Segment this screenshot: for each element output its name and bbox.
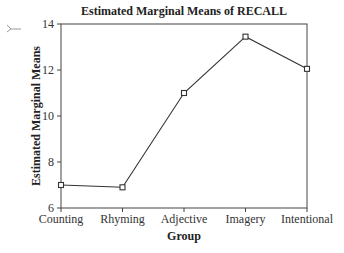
data-point-marker bbox=[120, 185, 125, 190]
x-tick-label: Adjective bbox=[161, 212, 208, 226]
data-point-marker bbox=[305, 66, 310, 71]
y-tick-label: 14 bbox=[42, 17, 54, 31]
y-tick-label: 10 bbox=[42, 109, 54, 123]
x-tick-label: Imagery bbox=[226, 212, 266, 226]
x-tick-label: Rhyming bbox=[100, 212, 145, 226]
data-point-marker bbox=[59, 183, 64, 188]
line-chart: 68101214CountingRhymingAdjectiveImageryI… bbox=[0, 0, 344, 253]
data-point-marker bbox=[182, 91, 187, 96]
y-tick-label: 8 bbox=[48, 155, 54, 169]
y-tick-label: 12 bbox=[42, 63, 54, 77]
plot-frame bbox=[61, 24, 307, 208]
data-line bbox=[61, 37, 307, 188]
x-tick-label: Intentional bbox=[281, 212, 334, 226]
data-point-marker bbox=[243, 34, 248, 39]
x-tick-label: Counting bbox=[39, 212, 84, 226]
